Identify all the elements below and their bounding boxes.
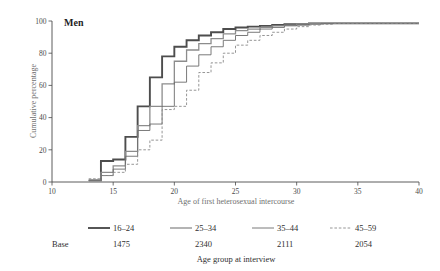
legend-label-45-59: 45–59: [355, 223, 376, 233]
series-line-25-34: [89, 23, 419, 180]
x-tick-label: 20: [171, 187, 179, 196]
legend-caption: Age group at interview: [197, 254, 276, 264]
legend-base-label: Base: [52, 239, 69, 249]
legend-label-25-34: 25–34: [195, 223, 217, 233]
legend-base-value-45-59: 2054: [355, 239, 373, 249]
x-tick-label: 15: [109, 187, 117, 196]
axes-group: [52, 21, 419, 182]
y-tick-label: 80: [39, 49, 47, 58]
x-tick-label: 35: [354, 187, 362, 196]
legend-base-value-25-34: 2340: [195, 239, 212, 249]
y-tick-label: 0: [43, 178, 47, 187]
legend-base-value-35-44: 2111: [277, 239, 293, 249]
y-tick-label: 100: [35, 17, 47, 26]
panel-title: Men: [64, 17, 84, 28]
plot-area: 10152025303540020406080100: [35, 17, 423, 196]
axis-ticks-group: 10152025303540020406080100: [35, 17, 423, 196]
x-tick-label: 10: [48, 187, 56, 196]
y-tick-label: 40: [39, 113, 47, 122]
y-tick-label: 60: [39, 81, 47, 90]
x-tick-label: 30: [293, 187, 301, 196]
legend-base-value-16-24: 1475: [113, 239, 130, 249]
legend-label-35-44: 35–44: [277, 223, 299, 233]
legend-label-16-24: 16–24: [113, 223, 135, 233]
y-axis-title: Cumulative percentage: [29, 64, 38, 138]
x-axis-title: Age of first heterosexual intercourse: [178, 197, 295, 206]
x-tick-label: 40: [415, 187, 423, 196]
series-line-45-59: [89, 23, 419, 178]
series-line-35-44: [89, 23, 419, 180]
series-group: [89, 23, 419, 180]
cumulative-percentage-chart-figure: 10152025303540020406080100 Men Age of fi…: [0, 0, 440, 271]
x-tick-label: 25: [232, 187, 240, 196]
y-tick-label: 20: [39, 146, 47, 155]
chart-canvas: 10152025303540020406080100 Men Age of fi…: [0, 0, 440, 271]
legend-group: 16–24147525–34234035–44211145–592054: [88, 223, 376, 249]
series-line-16-24: [89, 23, 419, 180]
